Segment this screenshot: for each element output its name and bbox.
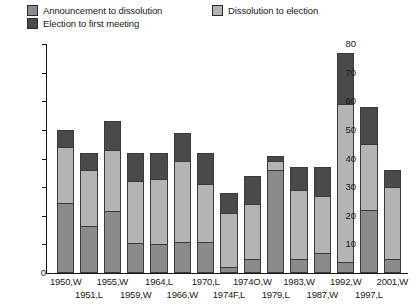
bar-segment xyxy=(220,193,237,213)
bar-segment xyxy=(220,213,237,267)
x-tick-label: 1979,L xyxy=(250,289,302,300)
x-tick-label: 1974O,W xyxy=(226,276,278,287)
bar-segment xyxy=(197,184,214,241)
bar-1987-W xyxy=(314,167,331,273)
bar-segment xyxy=(127,153,144,182)
bar-segment xyxy=(104,150,121,212)
bar-segment xyxy=(244,259,261,273)
bar-segment xyxy=(57,130,74,147)
bar-segment xyxy=(150,244,167,273)
bar-2001-W xyxy=(384,170,401,273)
bar-segment xyxy=(290,259,307,273)
y-axis-tick xyxy=(42,159,46,160)
x-tick-label: 1951,L xyxy=(63,289,115,300)
x-axis-labels: 1950,W1951,L1955,W1959,W1964,L1966,W1970… xyxy=(0,276,420,307)
bar-1959-W xyxy=(127,153,144,273)
bar-segment xyxy=(244,176,261,205)
bar-segment xyxy=(360,144,377,210)
bar-1979-L xyxy=(267,156,284,273)
bar-segment xyxy=(104,211,121,273)
bar-1964-L xyxy=(150,153,167,273)
bar-1997-L xyxy=(360,107,377,273)
bar-1983-W xyxy=(290,167,307,273)
x-tick-label: 1950,W xyxy=(40,276,92,287)
x-tick-label: 1964,L xyxy=(133,276,185,287)
legend-item-dissolution-to-election: Dissolution to election xyxy=(212,5,318,16)
bar-1966-W xyxy=(174,133,191,273)
x-tick-label: 1970,L xyxy=(180,276,232,287)
stacked-bar-chart: Announcement to dissolution Election to … xyxy=(0,0,420,307)
bar-segment xyxy=(80,226,97,273)
bar-segment xyxy=(314,196,331,253)
x-tick-label: 1974F,L xyxy=(203,289,255,300)
bar-1955-W xyxy=(104,121,121,273)
bar-1974O-W xyxy=(244,176,261,273)
bar-segment xyxy=(197,153,214,184)
bar-segment xyxy=(384,187,401,259)
y-tick-label: 40 xyxy=(334,154,356,164)
legend-label: Announcement to dissolution xyxy=(43,5,162,16)
bar-1974F-L xyxy=(220,193,237,273)
bar-segment xyxy=(267,161,284,170)
legend-swatch-icon xyxy=(27,18,38,29)
bar-segment xyxy=(127,181,144,243)
y-axis-tick xyxy=(42,187,46,188)
y-tick-label: 10 xyxy=(334,239,356,249)
legend-item-election-to-first-meeting: Election to first meeting xyxy=(27,18,139,29)
bar-segment xyxy=(337,262,354,273)
y-tick-label: 50 xyxy=(334,125,356,135)
bar-segment xyxy=(80,170,97,226)
bar-segment xyxy=(267,170,284,273)
bar-segment xyxy=(360,107,377,144)
x-tick-label: 1966,W xyxy=(156,289,208,300)
bar-segment xyxy=(80,153,97,170)
y-tick-label: 70 xyxy=(334,68,356,78)
bar-segment xyxy=(174,133,191,162)
bar-segment xyxy=(384,259,401,273)
bar-1950-W xyxy=(57,130,74,273)
x-tick-label: 1959,W xyxy=(110,289,162,300)
bar-segment xyxy=(174,242,191,273)
bar-segment xyxy=(360,210,377,273)
bar-segment xyxy=(127,243,144,273)
bar-segment xyxy=(104,121,121,150)
bar-segment xyxy=(290,167,307,190)
plot-area: 8070605040302010 xyxy=(46,44,408,274)
bar-segment xyxy=(314,167,331,196)
bar-segment xyxy=(57,203,74,273)
legend-label: Election to first meeting xyxy=(43,18,139,29)
bar-segment xyxy=(150,153,167,179)
legend-item-announcement-to-dissolution: Announcement to dissolution xyxy=(27,5,162,16)
bar-segment xyxy=(220,267,237,273)
x-tick-label: 2001,W xyxy=(366,276,418,287)
y-axis-tick xyxy=(42,44,46,45)
y-tick-label: 60 xyxy=(334,96,356,106)
bar-1951-L xyxy=(80,153,97,273)
bar-segment xyxy=(384,170,401,187)
chart-legend: Announcement to dissolution Election to … xyxy=(0,0,420,36)
bar-segment xyxy=(244,204,261,258)
y-tick-label: 20 xyxy=(334,211,356,221)
bar-segment xyxy=(197,242,214,273)
y-tick-label: 80 xyxy=(334,39,356,49)
legend-swatch-icon xyxy=(212,5,223,16)
bar-segment xyxy=(57,147,74,203)
x-tick-label: 1997,L xyxy=(343,289,395,300)
legend-label: Dissolution to election xyxy=(228,5,318,16)
bar-segment xyxy=(314,253,331,273)
y-axis-tick xyxy=(42,130,46,131)
bar-1970-L xyxy=(197,153,214,273)
x-tick-label: 1955,W xyxy=(86,276,138,287)
x-tick-label: 1987,W xyxy=(296,289,348,300)
bar-segment xyxy=(174,161,191,241)
x-tick-label: 1983,W xyxy=(273,276,325,287)
legend-swatch-icon xyxy=(27,5,38,16)
y-tick-label: 30 xyxy=(334,182,356,192)
y-axis-tick xyxy=(42,216,46,217)
bar-segment xyxy=(290,190,307,259)
x-tick-label: 1992,W xyxy=(320,276,372,287)
y-axis-tick xyxy=(42,101,46,102)
bar-segment xyxy=(150,179,167,245)
y-axis-tick xyxy=(42,73,46,74)
y-axis-tick xyxy=(42,244,46,245)
